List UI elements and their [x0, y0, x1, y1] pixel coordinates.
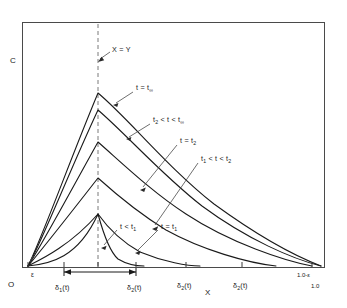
epsilon-label: ε	[31, 271, 34, 278]
leader-t-eq-t1	[138, 230, 158, 250]
label-r2-mid: < t < t	[206, 154, 228, 163]
arrowhead-t-eq-t1	[135, 251, 141, 255]
label-t-inf-sub: ∞	[149, 87, 153, 93]
curve-label-t-equals-t2: t = t2	[180, 136, 196, 146]
delta-paren-2a: (t)	[134, 283, 141, 292]
svg-text:t = t∞: t = t∞	[136, 83, 153, 93]
delta-paren-2c: (t)	[240, 281, 247, 290]
x-equals-y-label: X = Y	[112, 45, 131, 54]
x-axis-max-label: 1.0	[311, 283, 320, 289]
svg-text:δ2(t): δ2(t)	[177, 281, 192, 291]
delta-paren-2b: (t)	[184, 281, 191, 290]
svg-text:t < t1: t < t1	[120, 222, 136, 232]
label-teq1-sub: 1	[174, 226, 177, 232]
label-r1-sub-b: ∞	[180, 119, 184, 125]
x-tick-label-delta2-t-b: δ2(t)	[177, 281, 192, 291]
x-tick-label-delta2-t-c: δ2(t)	[233, 281, 248, 291]
svg-text:t = t2: t = t2	[180, 136, 196, 146]
arrowhead-t-lt-t1	[101, 246, 107, 250]
x-tick-label-delta1-t: δ1(t)	[55, 283, 70, 293]
curve-label-t1-lt-t-lt-t2: t1 < t < t2	[201, 154, 231, 164]
leader-t1-range	[155, 163, 198, 225]
label-t-inf-main: t = t	[136, 83, 149, 92]
label-teq1-main: t = t	[161, 222, 174, 231]
concentration-profile-chart: C X O ε 1.0-ε 1.0 X = Y δ1(t) δ2(t) δ2	[0, 0, 347, 308]
curve-label-t-equals-t-inf: t = t∞	[136, 83, 153, 93]
svg-text:δ1(t): δ1(t)	[55, 283, 70, 293]
y-axis-label: C	[10, 56, 16, 65]
x-equals-y-arrowhead	[98, 57, 104, 62]
leader-t-inf	[116, 92, 133, 103]
delta-span-right-arrowhead	[129, 269, 136, 275]
arrowhead-t-inf	[113, 103, 118, 107]
origin-label: O	[8, 280, 14, 289]
figure-container: C X O ε 1.0-ε 1.0 X = Y δ1(t) δ2(t) δ2	[0, 0, 347, 308]
x-axis-label: X	[205, 288, 211, 297]
curve-label-t2-lt-t-lt-t-inf: t2 < t < t∞	[153, 115, 184, 125]
svg-text:t2 < t < t∞: t2 < t < t∞	[153, 115, 184, 125]
label-tlt1-sub: 1	[133, 226, 136, 232]
delta-span-left-arrowhead	[64, 269, 71, 275]
label-r2-sub-b: 2	[228, 158, 231, 164]
svg-text:δ2(t): δ2(t)	[233, 281, 248, 291]
arrowhead-t-eq-t2	[140, 188, 146, 192]
label-t2-main: t = t	[180, 136, 193, 145]
label-r1-mid: < t < t	[158, 115, 180, 124]
curve-label-t-equals-t1: t = t1	[161, 222, 177, 232]
label-tlt1-main: t < t	[120, 222, 133, 231]
svg-text:t1 < t < t2: t1 < t < t2	[201, 154, 231, 164]
delta-paren-1: (t)	[62, 283, 69, 292]
one-minus-epsilon-label: 1.0-ε	[297, 272, 310, 278]
curve-label-t-lt-t1: t < t1	[120, 222, 136, 232]
svg-text:t = t1: t = t1	[161, 222, 177, 232]
x-tick-label-delta2-t-a: δ2(t)	[127, 283, 142, 293]
svg-text:δ2(t): δ2(t)	[127, 283, 142, 293]
label-t2-sub: 2	[193, 140, 196, 146]
